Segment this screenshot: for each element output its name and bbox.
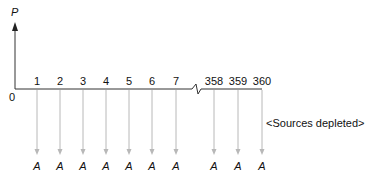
payment-label: A [32, 160, 40, 172]
arrow-down-icon [236, 149, 241, 155]
time-axis [15, 84, 262, 94]
arrow-down-icon [212, 149, 217, 155]
arrow-down-icon [81, 149, 86, 155]
payment-label: A [55, 160, 63, 172]
arrow-down-icon [104, 149, 109, 155]
arrow-down-icon [35, 149, 40, 155]
period-6: 6A [147, 75, 155, 172]
arrow-down-icon [174, 149, 179, 155]
arrow-down-icon [58, 149, 63, 155]
period-5: 5A [124, 75, 132, 172]
period-1: 1A [32, 75, 40, 172]
period-7: 7A [171, 75, 179, 172]
period-label: 3 [80, 75, 86, 87]
arrow-down-icon [150, 149, 155, 155]
payment-label: A [233, 160, 241, 172]
period-label: 2 [57, 75, 63, 87]
period-label: 1 [34, 75, 40, 87]
period-label: 7 [173, 75, 179, 87]
period-label: 5 [126, 75, 132, 87]
payment-label: A [147, 160, 155, 172]
cash-flow-diagram: P 0 1A2A3A4A5A6A7A358A359A360A <Sources … [0, 0, 370, 176]
payment-label: A [101, 160, 109, 172]
period-label: 6 [149, 75, 155, 87]
period-358: 358A [205, 75, 223, 172]
sources-depleted-note: <Sources depleted> [266, 117, 364, 129]
period-359: 359A [229, 75, 247, 172]
origin-label: 0 [9, 91, 15, 103]
period-2: 2A [55, 75, 63, 172]
period-label: 358 [205, 75, 223, 87]
payment-label: A [78, 160, 86, 172]
period-3: 3A [78, 75, 86, 172]
period-group: 1A2A3A4A5A6A7A358A359A360A [32, 75, 271, 172]
payment-label: A [171, 160, 179, 172]
period-label: 4 [103, 75, 109, 87]
period-4: 4A [101, 75, 109, 172]
y-axis-label: P [11, 6, 19, 18]
payment-label: A [257, 160, 265, 172]
arrow-down-icon [127, 149, 132, 155]
y-axis-arrow-icon [12, 22, 18, 31]
payment-label: A [124, 160, 132, 172]
period-label: 359 [229, 75, 247, 87]
payment-label: A [209, 160, 217, 172]
arrow-down-icon [260, 149, 265, 155]
period-label: 360 [253, 75, 271, 87]
